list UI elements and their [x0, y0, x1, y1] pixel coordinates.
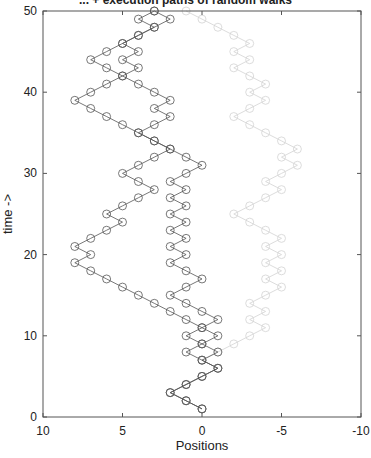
y-tick-label: 10 [24, 329, 38, 343]
random-walk-plot: 1050-5-1001020304050 Positions time -> [0, 0, 371, 458]
x-axis-label: Positions [176, 438, 229, 453]
x-tick-label: 0 [199, 424, 206, 438]
x-tick-label: -5 [276, 424, 287, 438]
y-tick-label: 0 [30, 410, 37, 424]
series-layer [71, 7, 302, 413]
series-walk-left [71, 7, 222, 413]
x-tick-label: 10 [36, 424, 50, 438]
walk-line [75, 11, 218, 409]
y-tick-label: 20 [24, 248, 38, 262]
x-tick-label: 5 [119, 424, 126, 438]
y-tick-label: 50 [24, 4, 38, 18]
y-tick-label: 30 [24, 166, 38, 180]
y-axis-label: time -> [0, 194, 15, 234]
series-walk-middle [119, 7, 222, 413]
axis-ticks: 1050-5-1001020304050 [24, 4, 370, 438]
x-tick-label: -10 [352, 424, 370, 438]
y-tick-label: 40 [24, 85, 38, 99]
